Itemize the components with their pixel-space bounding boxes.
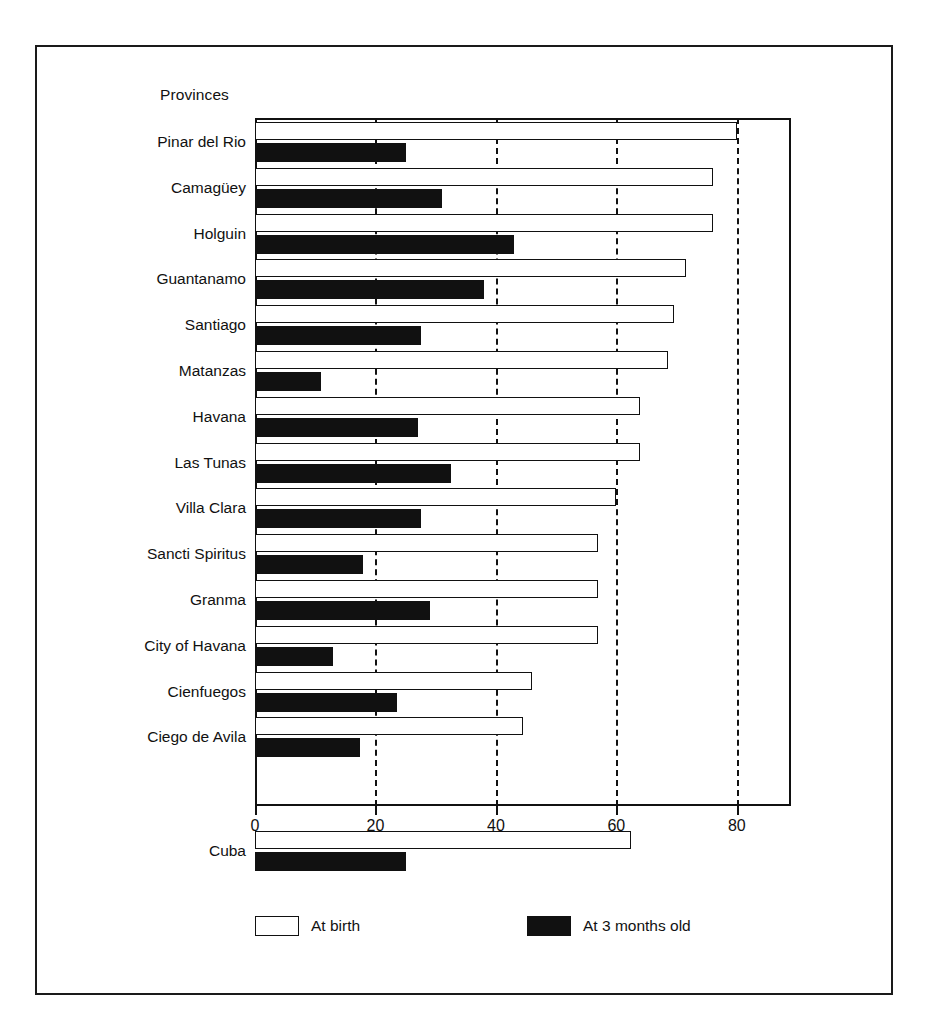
bar-at-3-months	[255, 647, 333, 666]
y-axis-label: City of Havana	[144, 638, 246, 654]
bar-at-3-months	[255, 280, 484, 299]
y-axis-label: Guantanamo	[156, 271, 246, 287]
open-rectangle-swatch	[255, 916, 299, 936]
bar-at-birth	[255, 626, 598, 644]
bar-at-birth	[255, 443, 640, 461]
bar-group	[255, 349, 791, 393]
y-axis-label: Cuba	[209, 843, 246, 859]
x-axis-tick-label: 80	[728, 817, 746, 835]
bar-at-3-months	[255, 326, 421, 345]
y-axis-label: Las Tunas	[174, 455, 246, 471]
bar-at-3-months	[255, 852, 406, 871]
y-axis-label: Pinar del Rio	[157, 134, 246, 150]
y-axis-label: Santiago	[185, 317, 246, 333]
bar-at-birth	[255, 214, 713, 232]
y-axis-label: Granma	[190, 592, 246, 608]
y-axis-label: Cienfuegos	[168, 684, 246, 700]
x-axis-tick-label: 0	[251, 817, 260, 835]
bar-group	[255, 624, 791, 668]
bar-at-birth	[255, 488, 616, 506]
x-axis-tick-label: 60	[607, 817, 625, 835]
legend-label: At birth	[311, 917, 360, 935]
bar-at-birth	[255, 168, 713, 186]
bar-at-birth	[255, 305, 674, 323]
bar-at-birth	[255, 122, 737, 140]
x-axis-tick-label: 40	[487, 817, 505, 835]
bar-at-birth	[255, 717, 523, 735]
bar-group	[255, 257, 791, 301]
bar-group	[255, 303, 791, 347]
bar-group	[255, 486, 791, 530]
x-axis-tick	[737, 806, 739, 815]
bar-group	[255, 715, 791, 759]
chart-page: Provinces Pinar del RioCamagüeyHolguinGu…	[0, 0, 928, 1029]
bar-at-birth	[255, 397, 640, 415]
bar-group	[255, 670, 791, 714]
bar-at-3-months	[255, 235, 514, 254]
chart-legend: At birthAt 3 months old	[255, 916, 775, 950]
x-axis-tick	[496, 806, 498, 815]
bar-at-3-months	[255, 555, 363, 574]
bar-at-3-months	[255, 693, 397, 712]
bar-at-3-months	[255, 143, 406, 162]
y-axis-label: Camagüey	[171, 180, 246, 196]
bar-group	[255, 166, 791, 210]
bar-at-birth	[255, 534, 598, 552]
legend-item: At 3 months old	[527, 916, 691, 936]
x-axis-tick	[255, 806, 257, 815]
x-axis-tick-label: 20	[367, 817, 385, 835]
legend-item: At birth	[255, 916, 360, 936]
y-axis-label: Matanzas	[179, 363, 246, 379]
y-axis-label: Ciego de Avila	[147, 729, 246, 745]
plot-area	[255, 118, 791, 806]
bar-at-3-months	[255, 372, 321, 391]
bar-group	[255, 441, 791, 485]
bar-group	[255, 578, 791, 622]
bar-at-3-months	[255, 601, 430, 620]
bar-at-birth	[255, 580, 598, 598]
bar-at-birth	[255, 351, 668, 369]
bar-group	[255, 532, 791, 576]
bar-at-3-months	[255, 464, 451, 483]
x-axis-tick	[375, 806, 377, 815]
bar-group	[255, 212, 791, 256]
legend-label: At 3 months old	[583, 917, 691, 935]
y-axis-label: Villa Clara	[176, 500, 246, 516]
y-axis-label: Sancti Spiritus	[147, 546, 246, 562]
bar-group	[255, 120, 791, 164]
bar-at-3-months	[255, 418, 418, 437]
bar-at-birth	[255, 672, 532, 690]
bar-at-3-months	[255, 189, 442, 208]
bar-at-3-months	[255, 509, 421, 528]
bar-at-birth	[255, 259, 686, 277]
y-axis-label: Holguin	[193, 226, 246, 242]
bar-group	[255, 395, 791, 439]
bar-at-3-months	[255, 738, 360, 757]
y-axis-labels: Pinar del RioCamagüeyHolguinGuantanamoSa…	[0, 0, 246, 1029]
x-axis: 020406080	[255, 806, 791, 850]
filled-rectangle-swatch	[527, 916, 571, 936]
y-axis-label: Havana	[193, 409, 246, 425]
x-axis-tick	[616, 806, 618, 815]
